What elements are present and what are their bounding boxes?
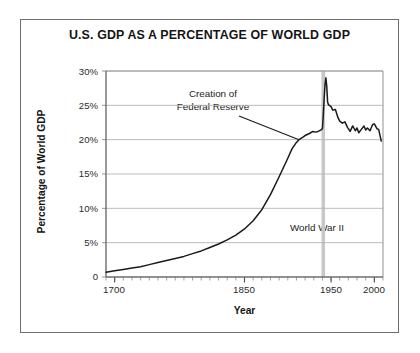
x-axis-major-ticks bbox=[115, 277, 375, 283]
horizontal-gridlines bbox=[106, 71, 383, 243]
plot-area bbox=[0, 0, 420, 353]
annotation-leader-line-federal-reserve bbox=[239, 116, 299, 140]
chart-figure: U.S. GDP AS A PERCENTAGE OF WORLD GDP Pe… bbox=[0, 0, 420, 353]
